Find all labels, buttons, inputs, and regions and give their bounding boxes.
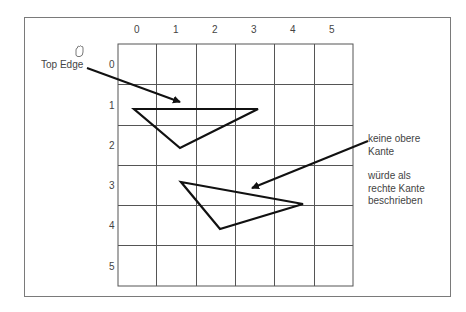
pixel-grid <box>118 44 353 286</box>
col-label-5: 5 <box>329 24 335 35</box>
row-label-5: 5 <box>109 261 115 272</box>
arrow-no-top-edge <box>252 141 368 188</box>
annotation-top-edge: Top Edge <box>41 59 83 72</box>
row-label-2: 2 <box>109 140 115 151</box>
annotation-right-edge: würde als rechte Kante beschrieben <box>368 170 425 208</box>
hand-cursor-icon <box>76 46 83 57</box>
col-label-0: 0 <box>134 24 140 35</box>
row-label-0: 0 <box>109 59 115 70</box>
row-label-4: 4 <box>109 220 115 231</box>
col-label-3: 3 <box>251 24 257 35</box>
col-label-2: 2 <box>212 24 218 35</box>
row-label-1: 1 <box>109 100 115 111</box>
row-label-3: 3 <box>109 180 115 191</box>
annotation-no-top-edge: keine obere Kante <box>368 133 420 158</box>
col-label-4: 4 <box>290 24 296 35</box>
col-label-1: 1 <box>173 24 179 35</box>
